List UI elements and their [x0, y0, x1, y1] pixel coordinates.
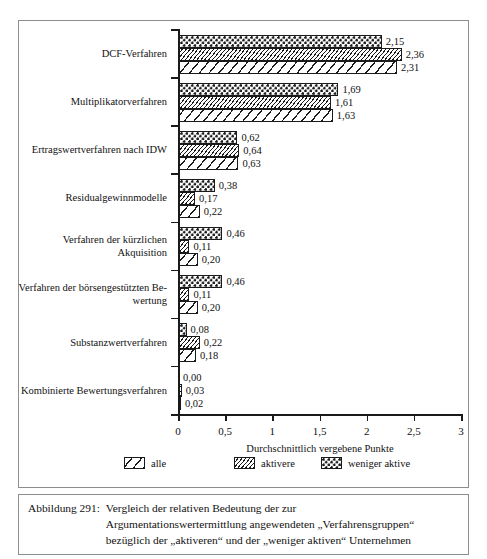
- bar-value-label: 0,20: [202, 301, 220, 314]
- x-axis-tick: [367, 414, 369, 421]
- category-label: Multiplikatorverfahren: [0, 95, 167, 108]
- x-axis-tick: [461, 414, 463, 421]
- bar: [179, 157, 238, 170]
- category-label-line: Verfahren der kürzlichen: [0, 233, 167, 246]
- caption-line: bezüglich der „aktiveren“ und der „wenig…: [106, 532, 459, 548]
- category-label: Substanzwertverfahren: [0, 335, 167, 348]
- bar-value-label: 2,31: [401, 61, 419, 74]
- bar: [179, 227, 222, 240]
- bar: [179, 301, 198, 314]
- bar: [179, 109, 333, 122]
- bar-value-label: 0,20: [202, 253, 220, 266]
- y-axis-tick: [171, 222, 178, 224]
- bar: [179, 336, 200, 349]
- category-label-line: Ertragswertverfahren nach IDW: [0, 143, 167, 156]
- caption-box: Abbildung 291: Vergleich der relativen B…: [18, 494, 469, 555]
- bar-value-label: 0,17: [199, 192, 217, 205]
- legend-label: alle: [151, 458, 166, 469]
- category-label-line: Verfahren der börsengestützten Be-: [0, 281, 167, 294]
- y-axis-tick: [171, 29, 178, 31]
- legend-item: alle: [124, 457, 166, 469]
- bar: [179, 275, 222, 288]
- x-axis-tick-label: 0: [175, 425, 181, 437]
- chart-legend: alleaktivereweniger aktive: [124, 457, 424, 477]
- category-label: Kombinierte Bewertungsverfahren: [0, 383, 167, 396]
- bar: [179, 35, 382, 48]
- bar-value-label: 0,02: [185, 397, 203, 410]
- x-axis-tick: [320, 414, 322, 421]
- bar-value-label: 0,38: [219, 179, 237, 192]
- legend-item: aktivere: [234, 457, 295, 469]
- category-label-line: Kombinierte Bewertungsverfahren: [0, 383, 167, 396]
- y-axis-tick: [171, 125, 178, 127]
- y-axis-tick: [171, 414, 178, 416]
- bar-value-label: 0,11: [193, 288, 211, 301]
- category-label-line: Multiplikatorverfahren: [0, 95, 167, 108]
- category-label: Residualgewinnmodelle: [0, 191, 167, 204]
- category-label: Verfahren der kürzlichenAkquisition: [0, 233, 167, 259]
- bar: [179, 48, 402, 61]
- bar: [179, 144, 239, 157]
- x-axis-tick-label: 2,5: [407, 425, 421, 437]
- x-axis-tick: [414, 414, 416, 421]
- category-label-line: Akquisition: [0, 246, 167, 259]
- bar: [179, 96, 331, 109]
- x-axis-tick-label: 0,5: [218, 425, 232, 437]
- bar-value-label: 0,18: [200, 349, 218, 362]
- bar: [179, 205, 200, 218]
- bar: [179, 240, 189, 253]
- bar: [179, 179, 215, 192]
- bar-value-label: 0,22: [204, 336, 222, 349]
- bar: [179, 323, 187, 336]
- bar-value-label: 0,00: [183, 371, 201, 384]
- bar: [179, 61, 397, 74]
- bar-value-label: 0,22: [204, 205, 222, 218]
- bar-value-label: 0,46: [226, 227, 244, 240]
- plot-area: 00,511,522,53 2,152,362,311,691,611,630,…: [178, 29, 461, 414]
- bar: [179, 384, 182, 397]
- legend-item: weniger aktive: [321, 457, 410, 469]
- bar-value-label: 2,15: [386, 35, 404, 48]
- category-label-line: wertung: [0, 294, 167, 307]
- x-axis-tick: [225, 414, 227, 421]
- x-axis-title: Durchschnittlich vergebene Punkte: [178, 443, 462, 454]
- bar-value-label: 0,08: [191, 323, 209, 336]
- chart-frame: 00,511,522,53 2,152,362,311,691,611,630,…: [18, 20, 469, 488]
- bar-value-label: 0,03: [186, 384, 204, 397]
- y-axis-tick: [171, 270, 178, 272]
- figure-root: 00,511,522,53 2,152,362,311,691,611,630,…: [0, 0, 487, 559]
- y-axis-tick: [171, 77, 178, 79]
- category-label: Verfahren der börsengestützten Be-wertun…: [0, 281, 167, 307]
- bar: [179, 349, 196, 362]
- bar-value-label: 0,63: [242, 157, 260, 170]
- bar-value-label: 2,36: [406, 48, 424, 61]
- bar: [179, 288, 189, 301]
- bar-value-label: 1,63: [337, 109, 355, 122]
- legend-swatch: [321, 457, 342, 469]
- x-axis-tick-label: 1,5: [313, 425, 327, 437]
- bar-value-label: 1,69: [342, 83, 360, 96]
- legend-swatch: [124, 457, 145, 469]
- x-axis-tick: [178, 414, 180, 421]
- category-label-line: Substanzwertverfahren: [0, 335, 167, 348]
- category-label: Ertragswertverfahren nach IDW: [0, 143, 167, 156]
- legend-label: weniger aktive: [348, 458, 410, 469]
- caption-line: Vergleich der relativen Bedeutung der zu…: [106, 500, 459, 516]
- bar: [179, 83, 338, 96]
- bar-value-label: 1,61: [335, 96, 353, 109]
- bar: [179, 253, 198, 266]
- x-axis-tick: [272, 414, 274, 421]
- category-label-line: Residualgewinnmodelle: [0, 191, 167, 204]
- category-label-line: DCF-Verfahren: [0, 47, 167, 60]
- bar: [179, 397, 181, 410]
- caption-line: Argumentationswertermittlung angewendete…: [106, 516, 459, 532]
- caption-text: Vergleich der relativen Bedeutung der zu…: [106, 500, 459, 548]
- legend-label: aktivere: [261, 458, 295, 469]
- x-axis-tick-label: 1: [270, 425, 276, 437]
- bar-value-label: 0,11: [193, 240, 211, 253]
- caption-number: Abbildung 291:: [28, 500, 106, 548]
- y-axis-tick: [171, 173, 178, 175]
- bar: [179, 131, 237, 144]
- category-label: DCF-Verfahren: [0, 47, 167, 60]
- x-axis-tick-label: 3: [458, 425, 464, 437]
